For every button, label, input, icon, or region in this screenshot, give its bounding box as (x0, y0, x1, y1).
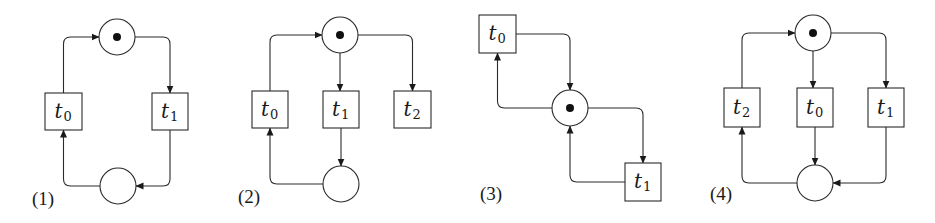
petri-net-4: t2t0t1(4) (710, 15, 904, 205)
transition-subscript: 1 (341, 107, 349, 122)
arc-t2-to-p_top (742, 33, 795, 88)
petri-net-1: t0t1(1) (32, 19, 188, 210)
transition-label: t (634, 169, 643, 193)
place-bottom (100, 168, 136, 204)
arc-p_top-to-t1 (135, 37, 170, 93)
transition-label: t (332, 97, 341, 121)
arc-p_center-to-t0 (498, 53, 553, 108)
transition-subscript: 2 (413, 107, 421, 122)
token-icon (809, 29, 817, 37)
transition-subscript: 0 (64, 109, 72, 124)
diagram-label: (4) (710, 183, 732, 205)
transition-subscript: 0 (270, 107, 278, 122)
transition-subscript: 1 (643, 179, 651, 194)
diagram-label: (3) (480, 183, 502, 205)
token-icon (113, 33, 121, 41)
diagram-label: (1) (32, 188, 54, 210)
transition-subscript: 1 (886, 105, 894, 120)
diagram-label: (2) (238, 186, 260, 208)
transition-subscript: 1 (170, 109, 178, 124)
arc-p_top-to-t1 (831, 33, 886, 88)
transition-t0: t0 (252, 91, 288, 128)
transition-subscript: 0 (498, 31, 506, 46)
arc-p_bottom-to-t0 (64, 130, 101, 186)
transition-label: t (55, 99, 64, 123)
petri-net-figure: t0t1(1)t0t1t2(2)t0t1(3)t2t0t1(4) (0, 0, 935, 223)
token-icon (336, 31, 344, 39)
transition-label: t (877, 95, 886, 119)
transition-t0: t0 (45, 93, 82, 130)
transition-label: t (161, 99, 170, 123)
arc-t1-to-p_bottom (833, 127, 886, 183)
arc-t0-to-p_top (64, 37, 100, 93)
transition-t0: t0 (797, 88, 833, 127)
transition-subscript: 2 (742, 105, 750, 120)
transition-label: t (733, 95, 742, 119)
transition-t1: t1 (868, 88, 904, 127)
arc-t0-to-p_top (270, 35, 322, 91)
petri-net-3: t0t1(3) (479, 15, 661, 205)
arc-p_bottom-to-t0 (270, 128, 323, 184)
transition-t1: t1 (625, 163, 661, 201)
arc-t1-to-p_center (570, 126, 625, 182)
arc-t0-to-p_center (516, 34, 570, 90)
arc-p_top-to-t2 (358, 35, 413, 91)
arc-p_bottom-to-t2 (742, 127, 797, 183)
arc-p_center-to-t1 (588, 108, 643, 163)
place-bottom (323, 166, 359, 202)
transition-t1: t1 (323, 91, 359, 128)
place-bottom (797, 165, 833, 201)
diagrams: t0t1(1)t0t1t2(2)t0t1(3)t2t0t1(4) (32, 15, 904, 210)
transition-t2: t2 (724, 88, 760, 127)
transition-t1: t1 (152, 93, 188, 130)
transition-t2: t2 (394, 91, 431, 128)
petri-net-2: t0t1t2(2) (238, 17, 431, 208)
transition-subscript: 0 (815, 105, 823, 120)
arc-t1-to-p_bottom (136, 130, 170, 186)
token-icon (566, 104, 574, 112)
transition-label: t (404, 97, 413, 121)
transition-label: t (261, 97, 270, 121)
transition-t0: t0 (479, 15, 516, 53)
transition-label: t (489, 21, 498, 45)
transition-label: t (806, 95, 815, 119)
